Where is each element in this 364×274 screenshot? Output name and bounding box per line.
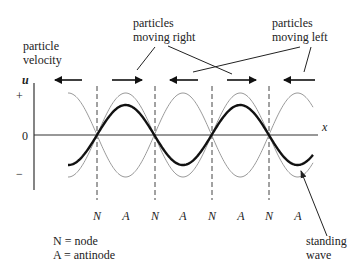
particle-velocity-label-2: velocity (23, 53, 62, 67)
moving-left-label-2: moving left (272, 30, 328, 44)
legend-node: N = node (53, 234, 98, 248)
y-tick-zero: 0 (22, 129, 28, 143)
leader-right-1 (137, 47, 155, 70)
moving-right-label-1: particles (133, 16, 174, 30)
standing-wave-pointer-arrow (301, 171, 327, 236)
leader-lines (137, 46, 311, 74)
leader-left-2 (304, 47, 311, 72)
leader-left-1 (193, 47, 300, 72)
y-tick-minus: − (16, 167, 23, 181)
antinode-label: A (293, 209, 302, 223)
node-label: N (92, 209, 102, 223)
x-axis-label: x (321, 120, 328, 134)
standing-wave-label-2: wave (306, 248, 331, 262)
y-tick-plus: + (16, 89, 23, 103)
standing-wave-diagram: particle velocity particles moving right… (0, 0, 364, 274)
node-label: N (207, 209, 217, 223)
antinode-label: A (236, 209, 245, 223)
node-lines (97, 86, 269, 200)
legend-antinode: A = antinode (53, 248, 115, 262)
antinode-label: A (121, 209, 130, 223)
node-label: N (264, 209, 274, 223)
y-axis-label: u (22, 73, 29, 87)
node-antinode-labels: N A N A N A N A (92, 209, 302, 223)
moving-left-label-1: particles (272, 16, 313, 30)
leader-right-2 (168, 46, 232, 74)
antinode-label: A (178, 209, 187, 223)
moving-right-label-2: moving right (133, 30, 196, 44)
particle-velocity-label-1: particle (23, 39, 59, 53)
node-label: N (150, 209, 160, 223)
standing-wave-label-1: standing (306, 234, 347, 248)
